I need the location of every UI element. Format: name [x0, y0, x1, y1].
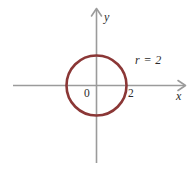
- polar-circle-plot: [0, 0, 193, 174]
- x-tick-label-2: 2: [128, 88, 134, 100]
- y-axis-label: y: [104, 11, 109, 23]
- radius-annotation: r = 2: [135, 54, 162, 66]
- x-axis-label: x: [176, 90, 181, 102]
- origin-label: 0: [84, 88, 90, 100]
- figure-canvas: y x 0 2 r = 2: [0, 0, 193, 174]
